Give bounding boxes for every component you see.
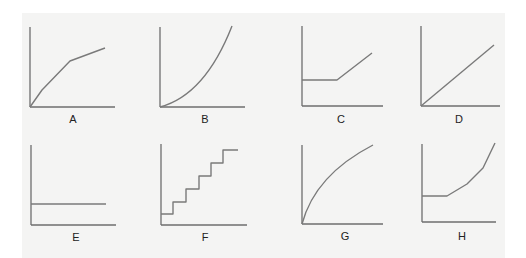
graph-label: B	[201, 113, 208, 125]
graph-b: B	[160, 26, 245, 125]
graph-f: F	[161, 144, 247, 243]
graph-curve	[302, 145, 373, 224]
graph-curve	[161, 150, 238, 214]
graph-grid: ABCDEFGH	[0, 0, 526, 258]
graph-label: E	[72, 231, 79, 243]
graph-g: G	[302, 145, 383, 242]
graph-label: A	[69, 113, 77, 125]
graph-h: H	[422, 143, 496, 242]
graph-c: C	[302, 26, 383, 125]
graph-label: D	[455, 113, 463, 125]
graph-a: A	[30, 27, 115, 125]
graph-label: H	[458, 230, 466, 242]
graph-d: D	[421, 26, 500, 125]
graph-curve	[421, 45, 494, 106]
graph-curve	[422, 143, 495, 196]
graph-curve	[160, 26, 232, 107]
graph-label: G	[341, 230, 350, 242]
graph-e: E	[31, 145, 116, 243]
graph-label: F	[202, 231, 209, 243]
graph-label: C	[337, 113, 345, 125]
graph-curve	[302, 53, 372, 80]
graph-curve	[30, 48, 105, 107]
